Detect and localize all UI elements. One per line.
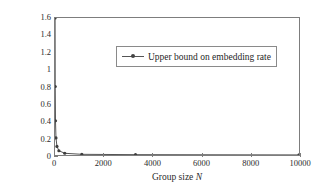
data-series-upper-bound-on-embedding-rate (55, 18, 299, 155)
x-tick-label: 4000 (144, 159, 161, 168)
x-tick-mark (251, 153, 252, 157)
plot-area (54, 17, 300, 156)
x-tick-mark (300, 153, 301, 157)
y-tick-label: 0 (47, 152, 51, 161)
y-tick-label: 0.2 (40, 134, 51, 143)
y-axis-title: Embedding rate (bpp) (0, 0, 8, 20)
y-tick-label: 1.2 (40, 48, 51, 57)
x-axis-title-symbol: N (196, 172, 202, 182)
x-tick-mark (54, 153, 55, 157)
series-data-point (55, 119, 57, 122)
y-tick-label: 1.6 (40, 13, 51, 22)
y-tick-label: 0.6 (40, 100, 51, 109)
series-data-point (55, 145, 58, 148)
series-data-point (55, 85, 57, 88)
x-tick-label: 2000 (95, 159, 112, 168)
x-tick-label: 0 (52, 159, 56, 168)
y-tick-label: 1 (47, 65, 51, 74)
x-tick-label: 6000 (193, 159, 210, 168)
x-tick-mark (152, 153, 153, 157)
legend-item-label: Upper bound on embedding rate (148, 52, 271, 62)
x-tick-mark (103, 153, 104, 157)
x-axis-tick-marks (54, 152, 300, 157)
series-data-point (55, 18, 57, 20)
x-axis-title-text: Group size (152, 172, 196, 182)
series-line (55, 18, 299, 155)
x-axis-title: Group size N (54, 172, 300, 182)
y-tick-label: 0.4 (40, 117, 51, 126)
x-tick-label: 8000 (242, 159, 259, 168)
figure-container: Embedding rate (bpp) 00.20.40.60.811.21.… (0, 0, 325, 193)
series-data-point (55, 136, 58, 139)
legend-box[interactable]: Upper bound on embedding rate (116, 46, 277, 67)
legend-line-marker-icon (122, 52, 144, 61)
y-axis-tick-labels: 00.20.40.60.811.21.41.6 (24, 17, 51, 156)
y-tick-label: 0.8 (40, 82, 51, 91)
x-tick-label: 10000 (289, 159, 310, 168)
x-axis-tick-labels: 0200040006000800010000 (54, 159, 300, 171)
y-tick-label: 1.4 (40, 30, 51, 39)
x-tick-mark (202, 153, 203, 157)
